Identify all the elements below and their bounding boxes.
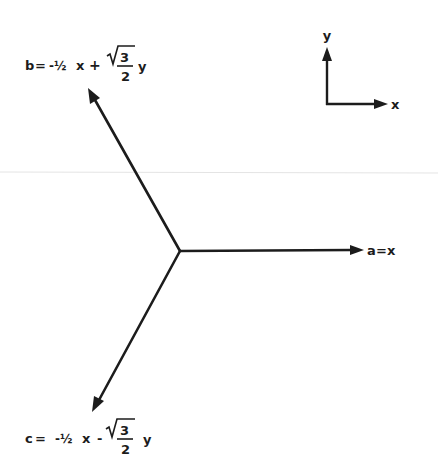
vector-a-lhs: a	[367, 243, 376, 258]
vector-a-eq: =	[376, 243, 387, 258]
vector-b-var2: y	[138, 59, 147, 74]
vector-b-label: b = -½ x + 3 2 y	[25, 46, 147, 84]
vector-c-op: -	[97, 431, 102, 446]
vector-a-rhs: x	[387, 243, 396, 258]
y-axis-arrowhead-icon	[322, 47, 332, 61]
x-axis-label: x	[391, 97, 400, 112]
vector-b-den: 2	[121, 69, 130, 84]
vector-b-coef: -½	[49, 59, 66, 73]
vector-b-arrowhead-icon	[88, 88, 100, 104]
reference-axes: y x	[322, 28, 400, 112]
vector-b-eq: =	[35, 58, 46, 73]
vector-c-den: 2	[121, 442, 130, 457]
y-axis-label: y	[323, 28, 332, 43]
scan-line	[0, 172, 438, 173]
vector-c-var2: y	[143, 432, 152, 447]
vector-a: a = x	[180, 243, 396, 258]
vector-b-sqrt-num: 3	[120, 50, 129, 65]
vector-a-label: a = x	[367, 243, 396, 258]
vector-b-shaft	[95, 100, 180, 251]
three-vector-diagram: y x a = x b = -½ x + 3 2 y	[0, 0, 438, 471]
vector-c-eq: =	[35, 431, 46, 446]
vector-c-lhs: c	[25, 431, 33, 446]
vector-c-label: c = -½ x - 3 2 y	[25, 419, 152, 457]
vector-a-arrowhead-icon	[350, 245, 364, 255]
vector-c-shaft	[99, 251, 180, 400]
vector-c: c = -½ x - 3 2 y	[25, 251, 180, 457]
vector-c-sqrt-num: 3	[120, 423, 129, 438]
vector-c-coef: -½	[55, 432, 72, 446]
vector-b-lhs: b	[25, 58, 34, 73]
x-axis-arrowhead-icon	[374, 99, 388, 109]
vector-c-var1: x	[82, 431, 91, 446]
vector-a-shaft	[180, 250, 352, 251]
vector-b: b = -½ x + 3 2 y	[25, 46, 180, 251]
vector-b-op: +	[89, 57, 101, 73]
vector-c-arrowhead-icon	[92, 396, 104, 412]
vector-b-var1: x	[76, 58, 85, 73]
